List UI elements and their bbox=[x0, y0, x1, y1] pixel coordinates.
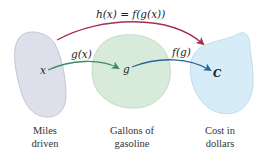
gallons-caption-line2: gasoline bbox=[115, 138, 150, 149]
g-arrow-label: g(x) bbox=[71, 48, 92, 60]
cost-caption-line2: dollars bbox=[206, 138, 235, 149]
element-c: C bbox=[213, 67, 222, 79]
element-g: g bbox=[123, 63, 130, 75]
element-x: x bbox=[40, 64, 46, 76]
miles-caption-line2: driven bbox=[32, 138, 60, 149]
composition-diagram: x g C g(x) f(g) h(x) = f(g(x)) Miles dri… bbox=[0, 0, 269, 156]
gallons-caption-line1: Gallons of bbox=[110, 125, 155, 136]
miles-caption-line1: Miles bbox=[33, 125, 57, 136]
cost-set-blob bbox=[190, 33, 253, 114]
f-arrow-label: f(g) bbox=[171, 46, 191, 58]
gallons-set-blob bbox=[92, 35, 170, 108]
h-arrow-label: h(x) = f(g(x)) bbox=[96, 8, 165, 20]
cost-caption-line1: Cost in bbox=[205, 125, 236, 136]
